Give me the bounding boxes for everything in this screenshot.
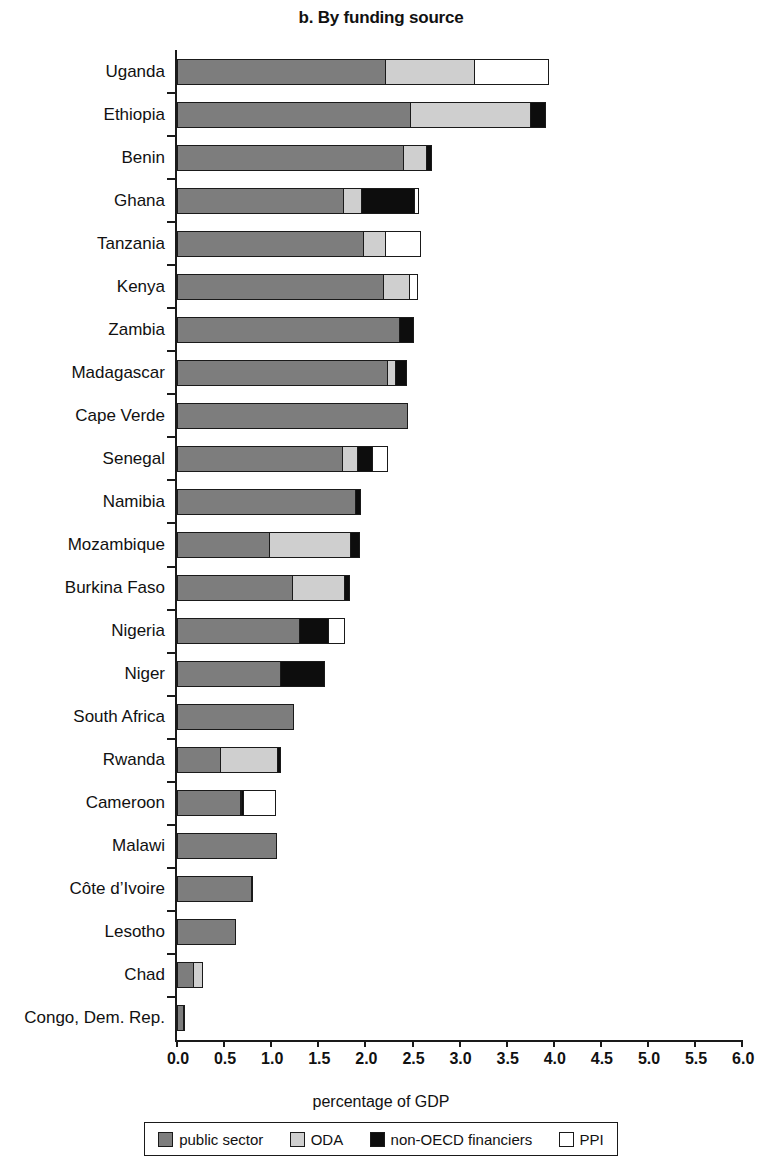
- stacked-bar[interactable]: [177, 1005, 184, 1031]
- stacked-bar[interactable]: [177, 618, 344, 644]
- y-tick: [167, 522, 176, 524]
- y-tick: [167, 135, 176, 137]
- bar-segment-public[interactable]: [177, 317, 400, 343]
- bar-segment-public[interactable]: [177, 876, 252, 902]
- bar-segment-oda[interactable]: [292, 575, 346, 601]
- bar-segment-oda[interactable]: [403, 145, 427, 171]
- bar-segment-oda[interactable]: [220, 747, 278, 773]
- bar-segment-nonoecd[interactable]: [357, 446, 374, 472]
- stacked-bar[interactable]: [177, 145, 431, 171]
- stacked-bar[interactable]: [177, 59, 547, 85]
- y-tick: [167, 953, 176, 955]
- y-tick: [167, 178, 176, 180]
- y-tick: [167, 221, 176, 223]
- stacked-bar[interactable]: [177, 360, 405, 386]
- bar-segment-nonoecd[interactable]: [355, 489, 361, 515]
- stacked-bar[interactable]: [177, 446, 387, 472]
- plot-area: 0.00.51.01.52.02.53.03.54.04.55.05.56.0 …: [177, 50, 742, 1040]
- stacked-bar[interactable]: [177, 747, 280, 773]
- bar-segment-ppi[interactable]: [243, 790, 276, 816]
- stacked-bar[interactable]: [177, 704, 292, 730]
- bar-segment-public[interactable]: [177, 575, 294, 601]
- category-label: Ethiopia: [104, 105, 165, 125]
- bar-segment-public[interactable]: [177, 661, 282, 687]
- bar-segment-public[interactable]: [177, 919, 236, 945]
- bar-segment-public[interactable]: [177, 403, 408, 429]
- bar-segment-nonoecd[interactable]: [277, 747, 282, 773]
- bar-segment-public[interactable]: [177, 489, 357, 515]
- bar-segment-nonoecd[interactable]: [530, 102, 546, 128]
- legend-item[interactable]: public sector: [158, 1131, 263, 1148]
- x-tick: [364, 1040, 366, 1047]
- stacked-bar[interactable]: [177, 317, 412, 343]
- legend-item[interactable]: PPI: [559, 1131, 604, 1148]
- category-label: Lesotho: [105, 922, 166, 942]
- x-tick: [694, 1040, 696, 1047]
- bar-segment-oda[interactable]: [193, 962, 202, 988]
- category-label: Zambia: [108, 320, 165, 340]
- bar-segment-oda[interactable]: [410, 102, 532, 128]
- bar-segment-oda[interactable]: [269, 532, 352, 558]
- bar-segment-nonoecd[interactable]: [395, 360, 406, 386]
- bar-segment-nonoecd[interactable]: [350, 532, 359, 558]
- bar-segment-public[interactable]: [177, 446, 344, 472]
- stacked-bar[interactable]: [177, 790, 275, 816]
- stacked-bar[interactable]: [177, 231, 419, 257]
- y-tick: [167, 350, 176, 352]
- bar-segment-public[interactable]: [177, 747, 221, 773]
- bar-segment-public[interactable]: [177, 102, 412, 128]
- bar-segment-ppi[interactable]: [372, 446, 388, 472]
- bar-segment-oda[interactable]: [383, 274, 411, 300]
- y-tick: [167, 609, 176, 611]
- stacked-bar[interactable]: [177, 102, 545, 128]
- stacked-bar[interactable]: [177, 661, 324, 687]
- bar-segment-public[interactable]: [177, 962, 195, 988]
- bar-segment-public[interactable]: [177, 274, 384, 300]
- chart-title: b. By funding source: [0, 8, 762, 28]
- stacked-bar[interactable]: [177, 919, 235, 945]
- stacked-bar[interactable]: [177, 962, 201, 988]
- bar-segment-public[interactable]: [177, 231, 364, 257]
- x-tick: [600, 1040, 602, 1047]
- bar-segment-nonoecd[interactable]: [426, 145, 432, 171]
- stacked-bar[interactable]: [177, 403, 406, 429]
- bar-segment-oda[interactable]: [183, 1005, 185, 1031]
- bar-segment-public[interactable]: [177, 145, 405, 171]
- bar-segment-ppi[interactable]: [385, 231, 421, 257]
- bar-segment-nonoecd[interactable]: [344, 575, 350, 601]
- bar-segment-oda[interactable]: [343, 188, 362, 214]
- bar-segment-ppi[interactable]: [328, 618, 346, 644]
- x-tick: [223, 1040, 225, 1047]
- bar-segment-ppi[interactable]: [409, 274, 417, 300]
- bar-segment-public[interactable]: [177, 59, 386, 85]
- x-tick: [412, 1040, 414, 1047]
- bar-segment-ppi[interactable]: [474, 59, 548, 85]
- bar-segment-nonoecd[interactable]: [399, 317, 414, 343]
- bar-segment-public[interactable]: [177, 833, 277, 859]
- bar-segment-nonoecd[interactable]: [361, 188, 416, 214]
- bar-segment-public[interactable]: [177, 360, 389, 386]
- stacked-bar[interactable]: [177, 532, 358, 558]
- stacked-bar[interactable]: [177, 833, 275, 859]
- y-tick: [167, 781, 176, 783]
- bar-segment-oda[interactable]: [363, 231, 387, 257]
- bar-segment-nonoecd[interactable]: [280, 661, 325, 687]
- bar-segment-public[interactable]: [177, 790, 242, 816]
- bar-segment-public[interactable]: [177, 532, 270, 558]
- stacked-bar[interactable]: [177, 575, 349, 601]
- stacked-bar[interactable]: [177, 188, 418, 214]
- bar-segment-public[interactable]: [177, 188, 345, 214]
- bar-segment-oda[interactable]: [251, 876, 253, 902]
- bar-segment-oda[interactable]: [385, 59, 476, 85]
- y-tick: [167, 996, 176, 998]
- bar-segment-ppi[interactable]: [414, 188, 420, 214]
- bar-segment-public[interactable]: [177, 704, 294, 730]
- legend-item[interactable]: ODA: [290, 1131, 344, 1148]
- stacked-bar[interactable]: [177, 274, 416, 300]
- stacked-bar[interactable]: [177, 876, 251, 902]
- legend-item[interactable]: non-OECD financiers: [370, 1131, 533, 1148]
- bar-segment-nonoecd[interactable]: [299, 618, 329, 644]
- y-tick: [167, 867, 176, 869]
- stacked-bar[interactable]: [177, 489, 360, 515]
- bar-segment-public[interactable]: [177, 618, 300, 644]
